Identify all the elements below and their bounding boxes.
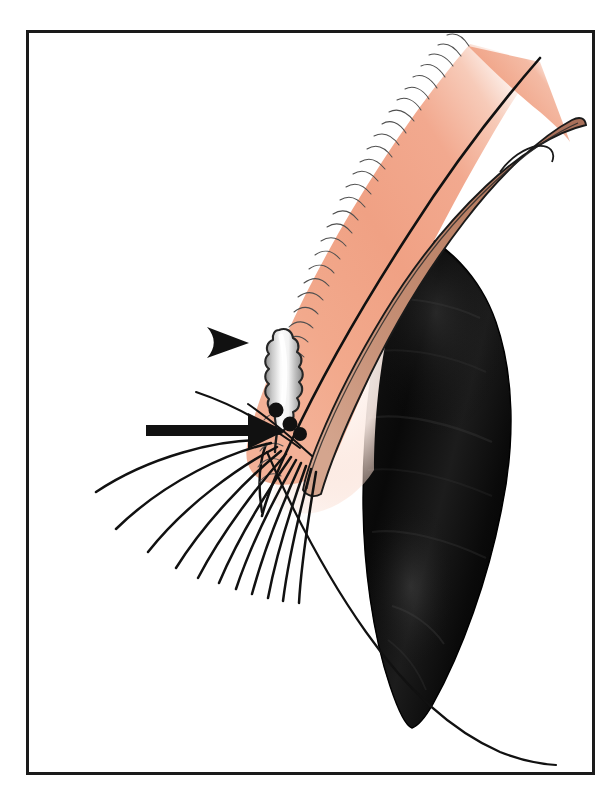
eyelid-anatomy-illustration [0, 0, 614, 795]
gland-orifice-dot [293, 427, 307, 441]
figure-root [0, 0, 614, 795]
gland-orifice-dot [269, 403, 284, 418]
